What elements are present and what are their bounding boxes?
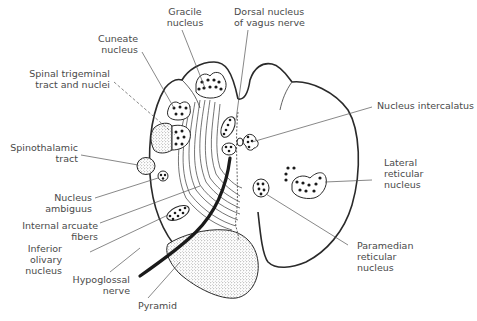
cuneate-nucleus <box>167 102 190 120</box>
label-gracile-nucleus: Gracile nucleus <box>160 6 210 28</box>
nucleus-ambiguus <box>158 171 168 181</box>
label-spinal-trigeminal: Spinal trigeminal tract and nuclei <box>22 68 110 90</box>
label-inferior-olivary-nucleus: Inferior olivary nucleus <box>16 243 62 276</box>
label-spinothalamic-tract: Spinothalamic tract <box>6 142 78 164</box>
label-paramedian-reticular-nucleus: Paramedian reticular nucleus <box>357 240 413 273</box>
label-nucleus-ambiguus: Nucleus ambiguus <box>40 192 92 214</box>
label-hypoglossal-nerve: Hypoglossal nerve <box>68 274 130 296</box>
dorsal-nucleus-of-vagus <box>218 114 238 139</box>
label-cuneate-nucleus: Cuneate nucleus <box>90 33 138 55</box>
inferior-olivary-nucleus <box>165 202 192 223</box>
nucleus-intercalatus <box>237 134 258 150</box>
lateral-reticular-nucleus <box>284 166 326 198</box>
label-pyramid: Pyramid <box>138 300 177 311</box>
spinothalamic-tract <box>137 158 155 175</box>
label-dorsal-nucleus-vagus: Dorsal nucleus of vagus nerve <box>234 6 305 28</box>
label-lateral-reticular-nucleus: Lateral reticular nucleus <box>384 157 424 190</box>
label-internal-arcuate-fibers: Internal arcuate fibers <box>6 220 98 242</box>
pyramid-region <box>167 230 259 299</box>
midline-raphe <box>236 112 239 240</box>
spinal-trigeminal-tract-and-nuclei <box>151 123 190 153</box>
hypoglossal-nucleus <box>222 143 236 155</box>
label-nucleus-intercalatus: Nucleus intercalatus <box>377 100 474 111</box>
